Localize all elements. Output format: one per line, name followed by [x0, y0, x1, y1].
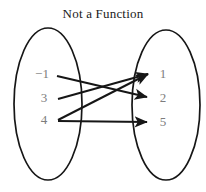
domain-node-1: 3 [41, 90, 48, 106]
mapping-arrow-4-to-5 [58, 121, 147, 122]
codomain-node-1: 2 [160, 90, 167, 106]
mapping-arrow-4-to-1 [58, 74, 148, 120]
codomain-node-0: 1 [160, 66, 167, 82]
domain-ellipse [14, 28, 82, 180]
mapping-arrows [57, 74, 148, 122]
domain-node-2: 4 [41, 112, 48, 128]
function-diagram-figure: Not a Function −134 125 [0, 0, 206, 192]
mapping-arrow-3-to-1 [58, 74, 148, 99]
mapping-diagram-canvas [0, 0, 206, 192]
codomain-node-2: 5 [160, 114, 167, 130]
domain-node-0: −1 [35, 66, 49, 82]
